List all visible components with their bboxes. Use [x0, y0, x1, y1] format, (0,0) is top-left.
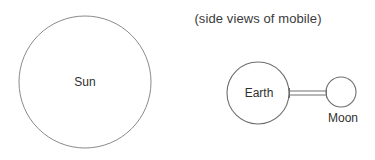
sun-label: Sun [55, 75, 115, 89]
moon-circle [326, 77, 356, 107]
moon-label: Moon [314, 111, 372, 125]
diagram-canvas: (side views of mobile) Sun Earth Moon [0, 0, 375, 160]
earth-moon-connector-rod [289, 88, 327, 98]
earth-label: Earth [229, 86, 289, 100]
